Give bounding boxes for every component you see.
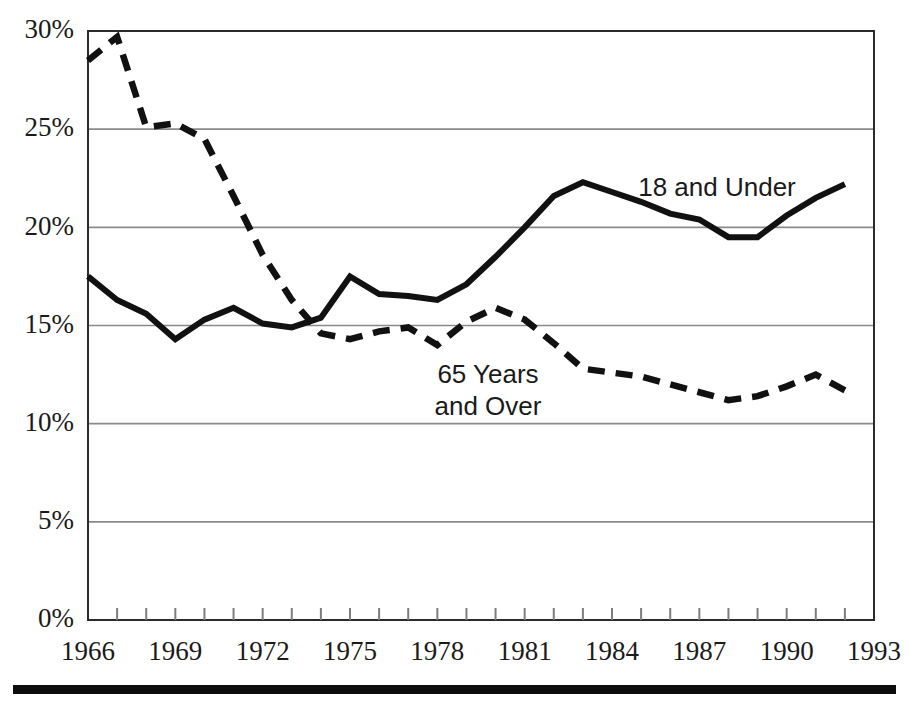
x-tick-label-6: 1984 (585, 636, 640, 666)
chart-figure: 30%25%20%15%10%5%0% 19661969197219751978… (0, 0, 909, 702)
x-tick-label-2: 1972 (236, 636, 290, 666)
line-chart: 30%25%20%15%10%5%0% 19661969197219751978… (0, 0, 909, 702)
y-tick-label-1: 25% (25, 112, 75, 142)
x-tick-label-9: 1993 (847, 636, 901, 666)
x-tick-label-1: 1969 (148, 636, 202, 666)
bottom-divider-rule (13, 685, 896, 694)
x-tick-label-5: 1981 (498, 636, 552, 666)
series-annotation-65-years-line1: 65 Years (437, 359, 538, 389)
y-tick-label-3: 15% (25, 309, 75, 339)
y-tick-label-6: 0% (38, 603, 74, 633)
x-tick-label-4: 1978 (410, 636, 464, 666)
y-tick-label-5: 5% (38, 505, 74, 535)
y-tick-label-4: 10% (25, 407, 75, 437)
y-tick-label-2: 20% (25, 211, 75, 241)
chart-background (0, 0, 909, 702)
y-tick-label-0: 30% (25, 14, 75, 44)
x-tick-label-0: 1966 (61, 636, 115, 666)
series-annotation-65-years-line2: and Over (435, 391, 542, 421)
x-tick-label-7: 1987 (672, 636, 726, 666)
x-tick-label-3: 1975 (323, 636, 377, 666)
x-tick-label-8: 1990 (760, 636, 814, 666)
series-annotation-18-and-under: 18 and Under (638, 172, 796, 202)
